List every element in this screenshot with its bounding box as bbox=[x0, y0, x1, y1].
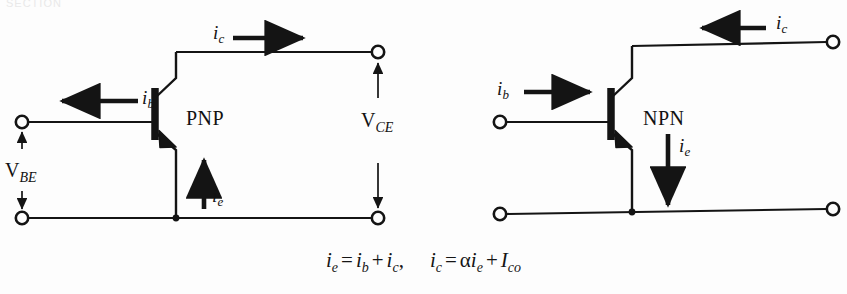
eq2-term1-sub: e bbox=[477, 260, 483, 275]
npn-emitter-junction-dot bbox=[629, 209, 636, 216]
eq1-term1-sub: b bbox=[362, 260, 369, 275]
eq2-term2: I bbox=[501, 248, 508, 272]
pnp-vce-label: VCE bbox=[361, 110, 393, 135]
pnp-collector-terminal bbox=[372, 46, 384, 58]
pnp-emitter-junction-dot bbox=[173, 215, 180, 222]
pnp-emitter-arrowhead bbox=[159, 131, 176, 148]
npn-ic-label: ic bbox=[776, 13, 787, 35]
pnp-ie-label: ie bbox=[212, 186, 223, 208]
npn-ie-label: ie bbox=[679, 136, 690, 158]
eq2-plus: + bbox=[483, 248, 501, 272]
npn-base-terminal bbox=[494, 116, 506, 128]
npn-type-label: NPN bbox=[643, 108, 685, 128]
pnp-circuit-group bbox=[16, 38, 384, 224]
npn-top-rail bbox=[632, 42, 827, 46]
eq1-comma: , bbox=[399, 248, 404, 272]
npn-bottom-rail bbox=[507, 209, 827, 214]
figure-page: SECTION bbox=[0, 0, 847, 294]
npn-bottom-right-terminal bbox=[827, 203, 839, 215]
pnp-bottom-right-terminal bbox=[372, 212, 384, 224]
pnp-type-label: PNP bbox=[186, 108, 224, 128]
eq1-equals: = bbox=[338, 248, 356, 272]
pnp-ic-label: ic bbox=[213, 23, 224, 45]
npn-ib-label: ib bbox=[497, 79, 509, 101]
pnp-ib-label: ib bbox=[142, 88, 154, 110]
npn-bottom-left-terminal bbox=[494, 208, 506, 220]
current-relations-equation: ie=ib+ic,ic=αie+Ico bbox=[0, 248, 847, 276]
pnp-vbe-label: VBE bbox=[5, 160, 37, 185]
pnp-collector-leg bbox=[156, 52, 176, 97]
npn-emitter-arrowhead bbox=[615, 131, 632, 148]
pnp-base-terminal bbox=[16, 116, 28, 128]
eq1-plus: + bbox=[369, 248, 387, 272]
eq2-equals: = bbox=[442, 248, 460, 272]
eq2-term2-sub: co bbox=[508, 260, 521, 275]
npn-collector-terminal bbox=[827, 36, 839, 48]
eq2-alpha: α bbox=[460, 248, 471, 272]
pnp-bottom-left-terminal bbox=[16, 212, 28, 224]
npn-collector-leg bbox=[612, 46, 632, 97]
